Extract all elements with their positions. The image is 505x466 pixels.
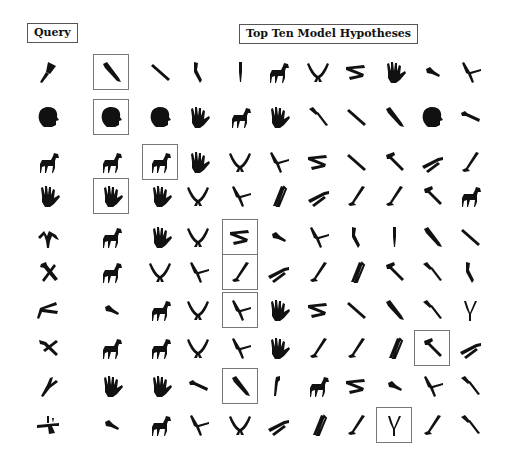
query-shape [30,144,66,180]
hypothesis-shape [142,219,178,255]
hypothesis-shape [452,144,488,180]
hypothesis-shape [452,330,488,366]
hand-icon [184,103,212,131]
hypothesis-shape [300,407,336,443]
hypothesis-shape [180,330,216,366]
pliers-cross-icon [418,372,446,400]
hammer-l-icon [304,334,332,362]
hand-icon [380,58,408,86]
correct-hypothesis-shape [93,54,129,90]
screwdriver-icon [304,103,332,131]
correct-hypothesis-shape [222,292,258,328]
query-shape [30,292,66,328]
pliers-cross-icon [304,223,332,251]
hypothesis-shape [338,292,374,328]
hypothesis-shape [142,99,178,135]
hand-icon [34,182,62,210]
hypothesis-shape [452,219,488,255]
hypothesis-shape [376,330,412,366]
pliers-cross-icon [264,148,292,176]
hypothesis-shape [300,292,336,328]
horse-icon [146,334,174,362]
pliers-folded-icon [226,223,254,251]
hypothesis-shape [142,407,178,443]
hypothesis-shape [452,99,488,135]
head-icon [34,103,62,131]
horse-icon [97,148,125,176]
hypothesis-shape [414,54,450,90]
branch-icon [34,372,62,400]
hypothesis-shape [93,144,129,180]
hypothesis-shape [300,219,336,255]
hypotheses-header-label: Top Ten Model Hypotheses [239,24,418,44]
hammer-icon [418,334,446,362]
hypothesis-shape [222,99,258,135]
hypothesis-shape [376,219,412,255]
hypothesis-shape [338,144,374,180]
pliers-open-icon [226,411,254,439]
pliers-cross-icon [184,258,212,286]
hypothesis-shape [300,368,336,404]
hand-icon [264,296,292,324]
pliers-up-icon [34,223,62,251]
horse-icon [226,103,254,131]
horse-icon [97,258,125,286]
pliers-open-icon [184,334,212,362]
knife-icon [418,223,446,251]
hypothesis-shape [260,368,296,404]
query-shape [30,178,66,214]
head-icon [418,103,446,131]
pliers-cross-icon [456,58,484,86]
tongs-icon [380,334,408,362]
hypothesis-shape [376,54,412,90]
query-shape [30,330,66,366]
hypothesis-shape [338,330,374,366]
hypothesis-shape [260,292,296,328]
hammer-l-icon [342,334,370,362]
hypothesis-shape [300,330,336,366]
hypothesis-shape [452,407,488,443]
pliers-cross-icon [226,334,254,362]
screwdriver-icon [456,372,484,400]
hammer-l-icon [226,258,254,286]
screwdriver-tiny-icon [264,223,292,251]
hypothesis-shape [338,178,374,214]
wrench-icon [456,103,484,131]
screwdriver-small-icon [380,223,408,251]
pliers-side-icon [456,334,484,362]
knife-blade-icon [456,258,484,286]
hypothesis-shape [338,219,374,255]
correct-hypothesis-shape [142,144,178,180]
hypothesis-shape [260,407,296,443]
horse-icon [146,148,174,176]
hypothesis-shape [222,330,258,366]
query-shape [30,407,66,443]
hammer-icon [418,182,446,210]
hypothesis-shape [414,254,450,290]
hypothesis-shape [260,144,296,180]
hammer-l-icon [342,411,370,439]
hypothesis-shape [180,54,216,90]
screwdriver-icon [456,411,484,439]
hypothesis-shape [414,292,450,328]
hypothesis-shape [414,144,450,180]
hypothesis-shape [452,254,488,290]
hypothesis-shape [142,54,178,90]
pliers-side-icon [264,411,292,439]
hypothesis-shape [414,178,450,214]
query-shape [30,254,66,290]
hypothesis-shape [222,407,258,443]
pliers-folded-icon [342,58,370,86]
hypothesis-shape [260,254,296,290]
hypothesis-shape [142,178,178,214]
hand-icon [97,182,125,210]
horse-icon [97,334,125,362]
hypothesis-shape [93,292,129,328]
hammer-icon [380,148,408,176]
knife-blade-icon [184,58,212,86]
hand-icon [97,372,125,400]
hypothesis-shape [142,254,178,290]
hypothesis-shape [300,54,336,90]
screwdriver-small-icon [226,58,254,86]
hypothesis-shape [142,330,178,366]
